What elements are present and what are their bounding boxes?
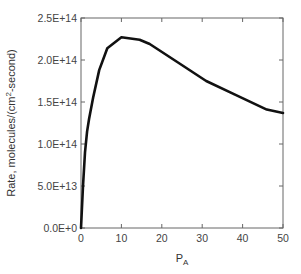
x-tick-label: 0	[78, 232, 84, 244]
y-tick-label: 2.0E+14	[38, 54, 78, 66]
x-axis-label: PA	[176, 252, 189, 267]
y-tick-label: 0.0E+0	[43, 222, 77, 234]
x-tick-label: 40	[237, 232, 249, 244]
y-axis-ticks: 0.0E+05.0E+131.0E+141.5E+142.0E+142.5E+1…	[38, 12, 283, 234]
y-axis-label: Rate, molecules/(cm2-second)	[4, 49, 17, 197]
y-tick-label: 1.5E+14	[38, 96, 78, 108]
x-tick-label: 10	[116, 232, 128, 244]
line-chart: 01020304050 0.0E+05.0E+131.0E+141.5E+142…	[0, 0, 301, 274]
data-series	[81, 37, 283, 228]
y-tick-label: 5.0E+13	[38, 180, 78, 192]
plot-frame	[81, 18, 283, 228]
rate-curve	[81, 37, 283, 228]
x-tick-label: 20	[156, 232, 168, 244]
x-axis-ticks: 01020304050	[78, 18, 289, 244]
x-tick-label: 30	[196, 232, 208, 244]
y-tick-label: 1.0E+14	[38, 138, 78, 150]
x-tick-label: 50	[277, 232, 289, 244]
plot-border	[81, 18, 283, 228]
y-tick-label: 2.5E+14	[38, 12, 78, 24]
